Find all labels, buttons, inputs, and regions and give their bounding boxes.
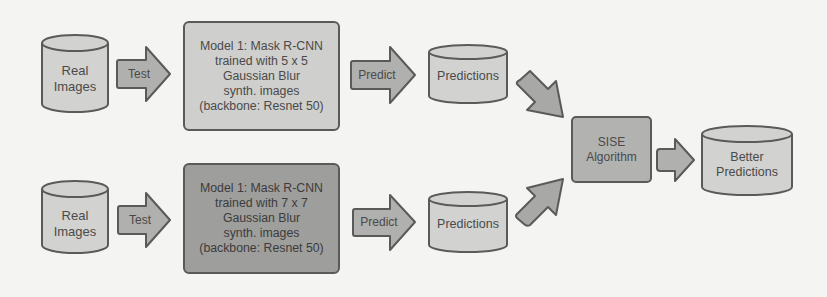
arrow-text: Test bbox=[128, 67, 150, 82]
model-label-bottom: Model 1: Mask R-CNN trained with 7 x 7 G… bbox=[184, 164, 339, 273]
model-line: Model 1: Mask R-CNN bbox=[199, 39, 323, 54]
arrow-text: Predict bbox=[358, 68, 395, 83]
model-label-top: Model 1: Mask R-CNN trained with 5 x 5 G… bbox=[184, 22, 339, 130]
arrow-text: Test bbox=[129, 213, 151, 228]
label-line: Images bbox=[54, 79, 97, 95]
predictions-label-top: Predictions bbox=[429, 60, 507, 94]
arrow-text: Predict bbox=[360, 215, 397, 230]
result-arrow bbox=[657, 139, 694, 181]
label-line: Predictions bbox=[716, 165, 778, 180]
predictions-label-bottom: Predictions bbox=[429, 206, 507, 244]
model-line: (backbone: Resnet 50) bbox=[199, 241, 323, 256]
label-line: Real bbox=[54, 63, 97, 79]
model-line: synth. images bbox=[199, 84, 323, 99]
model-line: trained with 5 x 5 bbox=[199, 54, 323, 69]
model-line: trained with 7 x 7 bbox=[199, 196, 323, 211]
label-line: Algorithm bbox=[586, 150, 637, 165]
model-line: synth. images bbox=[199, 226, 323, 241]
label-line: Real bbox=[54, 208, 97, 224]
merge-arrow-top bbox=[517, 71, 563, 117]
sise-algorithm-label: SISEAlgorithm bbox=[572, 117, 651, 182]
test-label-top: Test bbox=[117, 61, 161, 88]
model-line: (backbone: Resnet 50) bbox=[199, 99, 323, 114]
predict-label-bottom: Predict bbox=[353, 209, 405, 236]
label-line: Better bbox=[716, 150, 778, 165]
cylinder-text: Predictions bbox=[437, 217, 499, 232]
test-label-bottom: Test bbox=[118, 207, 162, 234]
better-predictions-label: BetterPredictions bbox=[702, 143, 792, 187]
cylinder-text: Predictions bbox=[437, 69, 499, 84]
label-line: Images bbox=[54, 224, 97, 240]
predict-label-top: Predict bbox=[351, 61, 403, 89]
real-images-label-bottom: RealImages bbox=[42, 199, 108, 249]
model-line: Gaussian Blur bbox=[199, 211, 323, 226]
merge-arrow-bottom bbox=[516, 179, 563, 226]
model-line: Model 1: Mask R-CNN bbox=[199, 181, 323, 196]
real-images-label-top: RealImages bbox=[42, 54, 108, 104]
model-line: Gaussian Blur bbox=[199, 69, 323, 84]
label-line: SISE bbox=[586, 135, 637, 150]
